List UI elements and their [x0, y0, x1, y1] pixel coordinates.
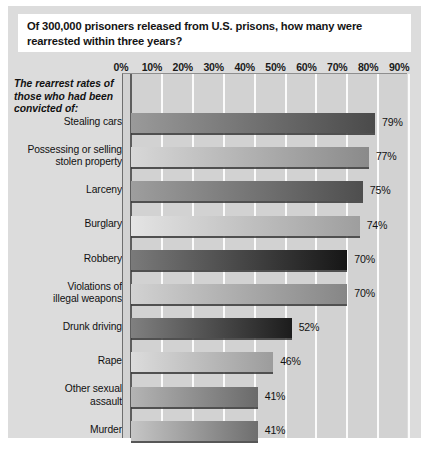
- bar-shadow: [131, 236, 360, 238]
- bar[interactable]: [131, 318, 292, 338]
- bar-shadow: [131, 372, 273, 374]
- category-label: Violations ofillegal weapons: [14, 281, 122, 306]
- bar-value-label: 75%: [370, 184, 391, 196]
- chart-title: Of 300,000 prisoners released from U.S. …: [27, 19, 402, 48]
- bar-row[interactable]: 52%: [123, 318, 407, 340]
- bar[interactable]: [131, 250, 347, 270]
- bar-row[interactable]: 79%: [123, 113, 407, 135]
- bar-value-label: 77%: [376, 150, 397, 162]
- category-label: Drunk driving: [14, 321, 122, 333]
- bar-row[interactable]: 46%: [123, 352, 407, 374]
- bar-shadow: [131, 338, 292, 340]
- bar[interactable]: [131, 284, 347, 304]
- bar-row[interactable]: 70%: [123, 250, 407, 272]
- bar-row[interactable]: 75%: [123, 181, 407, 203]
- bar-value-label: 70%: [354, 253, 375, 265]
- bar-shadow: [131, 304, 347, 306]
- bar-shadow: [131, 133, 375, 135]
- bar-value-label: 70%: [354, 287, 375, 299]
- bar[interactable]: [131, 147, 369, 167]
- chart-figure-panel: Of 300,000 prisoners released from U.S. …: [8, 6, 421, 438]
- bar[interactable]: [131, 352, 273, 372]
- category-label: Stealing cars: [14, 116, 122, 128]
- category-label: Larceny: [14, 184, 122, 196]
- bar-value-label: 41%: [265, 390, 286, 402]
- bar-row[interactable]: 41%: [123, 387, 407, 409]
- bar-value-label: 79%: [382, 116, 403, 128]
- bar-shadow: [131, 167, 369, 169]
- category-label: Murder: [14, 424, 122, 436]
- bar-shadow: [131, 201, 363, 203]
- bar-shadow: [131, 270, 347, 272]
- bar[interactable]: [131, 113, 375, 133]
- bar-value-label: 74%: [367, 219, 388, 231]
- bar-value-label: 52%: [299, 321, 320, 333]
- plot-inner: 79%77%75%74%70%70%52%46%41%41%: [123, 74, 407, 438]
- x-tick-label-90: 90%: [379, 61, 419, 73]
- bar-row[interactable]: 70%: [123, 284, 407, 306]
- category-axis-caption: The rearrest rates ofthose who had beenc…: [14, 78, 122, 116]
- gridline-90: [408, 74, 410, 438]
- category-label: Robbery: [14, 253, 122, 265]
- category-label: Burglary: [14, 218, 122, 230]
- category-label-column: The rearrest rates ofthose who had beenc…: [14, 74, 122, 436]
- bar[interactable]: [131, 387, 258, 407]
- bar[interactable]: [131, 216, 360, 236]
- bar-value-label: 41%: [265, 424, 286, 436]
- bar-row[interactable]: 77%: [123, 147, 407, 169]
- plot-area: 79%77%75%74%70%70%52%46%41%41%: [122, 73, 407, 438]
- bar[interactable]: [131, 181, 363, 201]
- bar-row[interactable]: 41%: [123, 421, 407, 443]
- bar-value-label: 46%: [280, 355, 301, 367]
- bar-shadow: [131, 407, 258, 409]
- category-label: Rape: [14, 355, 122, 367]
- category-label: Other sexualassault: [14, 383, 122, 408]
- bar-shadow: [131, 441, 258, 443]
- chart-title-box: Of 300,000 prisoners released from U.S. …: [18, 14, 411, 52]
- bar-row[interactable]: 74%: [123, 216, 407, 238]
- bar[interactable]: [131, 421, 258, 441]
- category-label: Possessing or sellingstolen property: [14, 144, 122, 169]
